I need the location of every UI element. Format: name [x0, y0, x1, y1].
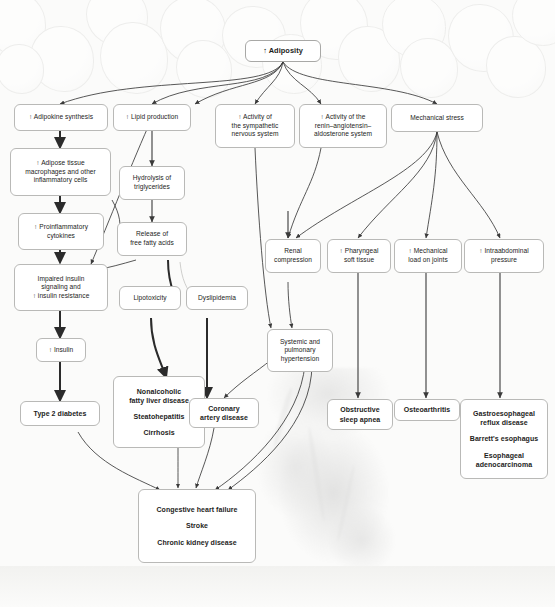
- node-insulin[interactable]: ↑ Insulin: [36, 338, 86, 362]
- node-raas-activity[interactable]: ↑ Activity of the renin–angiotensin– ald…: [299, 104, 387, 148]
- node-impaired-insulin[interactable]: Impaired insulin signaling and ↑ insulin…: [14, 264, 108, 311]
- node-proinflammatory-line-1: ↑ Proinflammatory: [34, 223, 88, 232]
- node-mechanical-stress[interactable]: Mechanical stress: [391, 104, 483, 132]
- node-type-2-diabetes-line-1: Type 2 diabetes: [34, 409, 87, 418]
- node-renal-line-2: compression: [274, 256, 312, 265]
- node-lipotoxicity-line-1: Lipotoxicity: [133, 294, 166, 303]
- background-floor-gradient: [0, 566, 555, 607]
- node-congestive-heart-failure: Congestive heart failure: [157, 505, 238, 514]
- node-sympathetic-line-3: nervous system: [232, 130, 279, 139]
- node-dyslipidemia-line-1: Dyslipidemia: [198, 294, 236, 303]
- node-type-2-diabetes[interactable]: Type 2 diabetes: [20, 401, 100, 426]
- node-proinflammatory-cytokines[interactable]: ↑ Proinflammatory cytokines: [18, 213, 104, 250]
- node-nafld-line-2: fatty liver disease: [129, 396, 189, 405]
- node-hydrolysis-line-2: triglycerides: [134, 183, 170, 192]
- node-adiposity-line-1: ↑ Adiposity: [263, 46, 303, 56]
- node-mechanical-stress-line-1: Mechanical stress: [410, 114, 464, 123]
- node-hydrolysis-triglycerides[interactable]: Hydrolysis of triglycerides: [119, 166, 185, 200]
- node-adipose-tissue-macrophages[interactable]: ↑ Adipose tissue macrophages and other i…: [10, 148, 111, 196]
- node-pharyngeal-line-2: soft tissue: [344, 256, 374, 265]
- node-mechanical-load-joints[interactable]: ↑ Mechanical load on joints: [394, 239, 462, 273]
- node-steatohepatitis: Steatohepatitis: [134, 412, 185, 421]
- node-sympathetic-activity[interactable]: ↑ Activity of the sympathetic nervous sy…: [215, 104, 295, 148]
- node-adipose-tissue-line-3: inflammatory cells: [34, 176, 88, 185]
- node-hypertension-line-3: hypertension: [281, 355, 319, 364]
- node-stroke: Stroke: [186, 521, 208, 530]
- node-adipokine-synthesis[interactable]: ↑ Adipokine synthesis: [14, 104, 108, 131]
- node-obstructive-sleep-apnea[interactable]: Obstructive sleep apnea: [327, 399, 393, 430]
- node-osteoarthritis-line-1: Osteoarthritis: [404, 405, 451, 414]
- node-proinflammatory-line-2: cytokines: [47, 232, 75, 241]
- node-coronary-artery-disease[interactable]: Coronary artery disease: [189, 398, 259, 428]
- node-mechanical-load-line-2: load on joints: [408, 256, 448, 265]
- node-sympathetic-line-2: the sympathetic: [232, 122, 279, 131]
- node-ffa-line-1: Release of: [136, 230, 168, 239]
- node-adipokine-line-1: ↑ Adipokine synthesis: [29, 113, 93, 122]
- node-esophageal-adeno-line-1: Esophageal: [484, 451, 524, 460]
- node-mechanical-load-line-1: ↑ Mechanical: [408, 247, 447, 256]
- node-raas-line-3: aldosterone system: [314, 130, 372, 139]
- node-renal-compression[interactable]: Renal compression: [265, 239, 321, 273]
- node-coronary-line-1: Coronary: [208, 404, 240, 413]
- node-hypertension-line-1: Systemic and: [280, 338, 320, 347]
- node-adiposity[interactable]: ↑ Adiposity: [245, 40, 321, 62]
- node-coronary-line-2: artery disease: [200, 413, 248, 422]
- node-cirrhosis: Cirrhosis: [143, 428, 174, 437]
- node-esophageal-adeno-line-2: adenocarcinoma: [476, 460, 532, 469]
- node-hypertension-line-2: pulmonary: [284, 346, 315, 355]
- node-impaired-insulin-line-1: Impaired insulin: [38, 275, 85, 284]
- node-adipose-tissue-line-1: ↑ Adipose tissue: [36, 159, 84, 168]
- node-nafld-line-1: Nonalcoholic: [137, 387, 182, 396]
- node-hydrolysis-line-1: Hydrolysis of: [133, 174, 171, 183]
- node-lipid-production[interactable]: ↑ Lipid production: [113, 104, 191, 131]
- node-gerd-line-1: Gastroesophageal: [473, 409, 535, 418]
- node-intraabdominal-line-1: ↑ Intraabdominal: [479, 247, 529, 256]
- node-ffa-line-2: free fatty acids: [130, 239, 174, 248]
- node-pharyngeal-soft-tissue[interactable]: ↑ Pharyngeal soft tissue: [327, 239, 391, 273]
- node-osa-line-2: sleep apnea: [340, 415, 381, 424]
- node-barretts-esophagus: Barrett's esophagus: [470, 434, 538, 443]
- node-systemic-pulmonary-hypertension[interactable]: Systemic and pulmonary hypertension: [267, 329, 333, 372]
- obesity-comorbidity-flow-diagram: ↑ Adiposity ↑ Adipokine synthesis ↑ Lipi…: [0, 0, 555, 607]
- node-lipotoxicity[interactable]: Lipotoxicity: [119, 286, 181, 310]
- node-osa-line-1: Obstructive: [340, 405, 379, 414]
- node-final-outcomes[interactable]: Congestive heart failure Stroke Chronic …: [138, 489, 256, 563]
- node-adipose-tissue-line-2: macrophages and other: [25, 168, 96, 177]
- node-impaired-insulin-line-3: ↑ insulin resistance: [33, 292, 90, 301]
- node-intraabdominal-line-2: pressure: [491, 256, 517, 265]
- node-impaired-insulin-line-2: signaling and: [41, 283, 81, 292]
- node-osteoarthritis[interactable]: Osteoarthritis: [394, 399, 460, 421]
- node-intraabdominal-pressure[interactable]: ↑ Intraabdominal pressure: [464, 239, 544, 273]
- node-gerd-group[interactable]: Gastroesophageal reflux disease Barrett'…: [460, 399, 548, 479]
- node-sympathetic-line-1: ↑ Activity of: [238, 113, 272, 122]
- node-dyslipidemia[interactable]: Dyslipidemia: [186, 286, 248, 310]
- node-pharyngeal-line-1: ↑ Pharyngeal: [339, 247, 378, 256]
- node-renal-line-1: Renal: [284, 247, 301, 256]
- node-chronic-kidney-disease: Chronic kidney disease: [157, 538, 236, 547]
- node-gerd-line-2: reflux disease: [480, 418, 527, 427]
- node-raas-line-1: ↑ Activity of the: [321, 113, 366, 122]
- node-free-fatty-acids[interactable]: Release of free fatty acids: [117, 222, 187, 256]
- node-lipid-production-line-1: ↑ Lipid production: [126, 113, 179, 122]
- node-insulin-line-1: ↑ Insulin: [49, 346, 74, 355]
- node-raas-line-2: renin–angiotensin–: [315, 122, 372, 131]
